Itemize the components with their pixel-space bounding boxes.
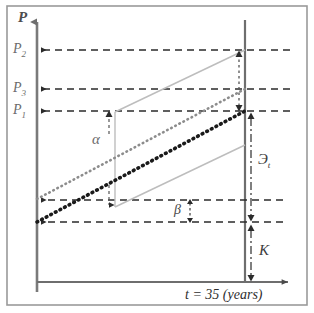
y-tick-p3-base: P xyxy=(13,80,22,95)
et-label-base: Э xyxy=(258,151,268,167)
y-tick-p2-sub: 2 xyxy=(22,49,27,59)
y-tick-p2-base: P xyxy=(13,41,22,56)
trend-line-thin xyxy=(37,89,245,199)
beta-label: β xyxy=(174,203,181,217)
drop-line-p2-p1 xyxy=(236,51,243,112)
beta-measure xyxy=(187,199,193,223)
y-tick-p3: P3 xyxy=(13,81,26,98)
y-tick-p1-base: P xyxy=(13,102,22,117)
x-axis-label: t = 35 (years) xyxy=(185,288,263,302)
trend-line-thick xyxy=(37,111,245,222)
y-tick-p1-sub: 1 xyxy=(22,110,27,120)
et-label-sub: t xyxy=(268,160,271,170)
y-tick-p1: P1 xyxy=(13,103,26,120)
et-label: Эt xyxy=(258,152,270,170)
alpha-construction xyxy=(115,50,245,207)
et-measure xyxy=(248,113,255,222)
k-label: K xyxy=(259,243,269,258)
k-measure xyxy=(248,225,255,282)
y-axis-label: P xyxy=(18,10,27,25)
y-tick-p2: P2 xyxy=(13,42,26,59)
diagram-figure: P P2 P3 P1 α β Эt K t = 35 (years) xyxy=(0,0,314,313)
alpha-label: α xyxy=(92,132,100,147)
alpha-measure xyxy=(106,111,113,206)
y-tick-p3-sub: 3 xyxy=(22,88,27,98)
